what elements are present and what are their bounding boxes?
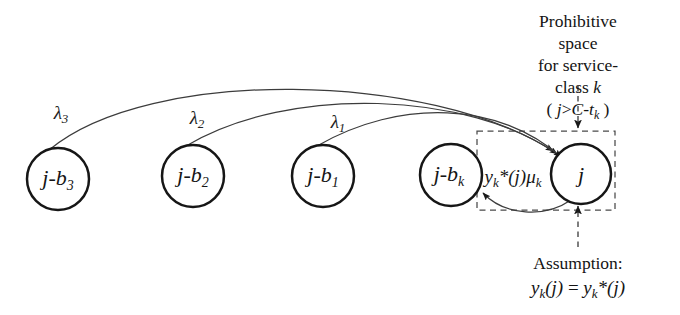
rate-label-lambda3: λ3 xyxy=(54,103,69,125)
prohibitive-space-line1: Prohibitive space xyxy=(527,10,629,54)
state-label-j-b3: j-b3 xyxy=(42,167,73,192)
arrival-arc-lambda2 xyxy=(186,103,557,154)
service-arc xyxy=(483,193,571,212)
state-label-j-bk: j-bk xyxy=(434,163,465,188)
figure-canvas: j-b3 j-b2 j-b1 j-bk j λ3 λ2 λ1 yk*(j)μk … xyxy=(0,0,680,315)
prohibitive-space-line2: for service-class k xyxy=(527,54,629,98)
assumption-callout: Assumption: yk(j) = yk*(j) xyxy=(531,252,625,303)
state-label-j-b1: j-b1 xyxy=(307,164,338,189)
prohibitive-space-callout: Prohibitive space for service-class k ( … xyxy=(527,10,629,123)
state-label-j: j xyxy=(578,164,584,186)
rate-label-lambda2: λ2 xyxy=(190,108,205,130)
assumption-line2: yk(j) = yk*(j) xyxy=(531,276,625,303)
prohibitive-space-line3: ( j>C-tk ) xyxy=(527,98,629,123)
rate-label-lambda1: λ1 xyxy=(331,112,346,134)
assumption-line1: Assumption: xyxy=(531,252,625,274)
arrival-arc-group xyxy=(49,89,561,157)
service-rate-label: yk*(j)μk xyxy=(485,167,542,189)
state-label-j-b2: j-b2 xyxy=(177,164,208,189)
